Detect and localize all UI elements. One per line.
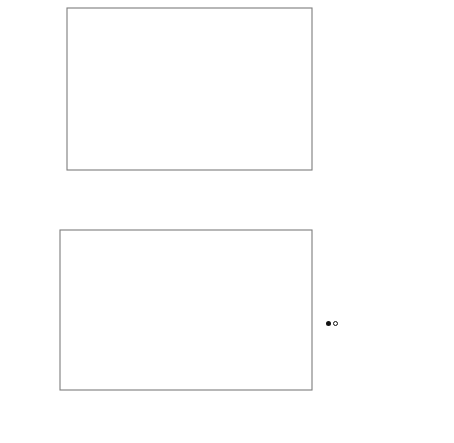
molar-mass-vs-volume-plot: [0, 213, 330, 443]
mark-houwink-plot: [0, 0, 330, 216]
filled-circle-icon: [326, 321, 331, 326]
open-circle-icon: [333, 321, 338, 326]
molar-mass-vs-volume-svg: [0, 213, 330, 443]
figure-6-16: [0, 0, 454, 443]
mark-houwink-svg: [0, 0, 330, 216]
top-plot-frame: [67, 8, 312, 170]
figure-caption: [325, 316, 453, 329]
bottom-plot-frame: [60, 230, 312, 390]
